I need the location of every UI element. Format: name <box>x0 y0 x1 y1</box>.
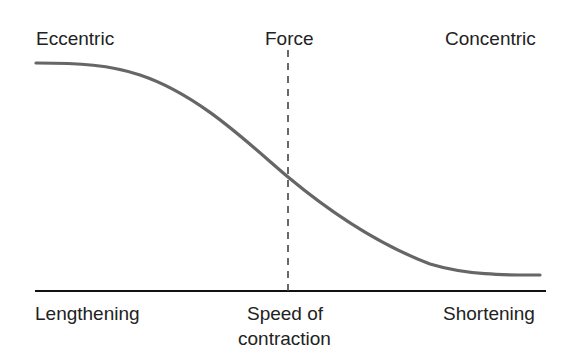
speed-label-line1: Speed of <box>247 303 323 325</box>
concentric-label: Concentric <box>445 28 536 50</box>
speed-label-line2: contraction <box>238 328 331 350</box>
eccentric-label: Eccentric <box>36 28 114 50</box>
shortening-label: Shortening <box>443 303 535 325</box>
lengthening-label: Lengthening <box>35 303 140 325</box>
force-label: Force <box>265 28 314 50</box>
